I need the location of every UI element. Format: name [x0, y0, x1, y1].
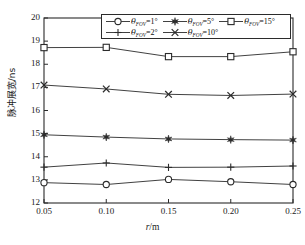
x-axis-title: r/m — [0, 222, 305, 232]
data-point-plus — [165, 164, 172, 171]
x-tick-label: 0.10 — [86, 206, 126, 216]
legend-label: θFOV=5° — [188, 17, 215, 26]
legend-item[interactable]: θFOV=15° — [218, 16, 275, 27]
data-point-circle-open — [228, 179, 234, 185]
legend-symbol-plus — [105, 27, 131, 38]
legend-symbol-cross — [162, 27, 188, 38]
data-point-circle-open — [41, 180, 47, 186]
legend-symbol-square-open — [218, 16, 244, 27]
data-point-square-open — [228, 54, 234, 60]
data-point-plus — [289, 162, 296, 169]
data-point-square-open — [228, 18, 234, 24]
y-tick-label: 17 — [16, 81, 40, 91]
legend-label: θFOV=2° — [131, 28, 158, 37]
y-tick-label: 15 — [16, 128, 40, 138]
legend-row-1: θFOV=1°θFOV=5°θFOV=15° — [105, 16, 287, 27]
data-point-plus — [40, 164, 47, 171]
y-tick-label: 20 — [16, 12, 40, 22]
legend-symbol-star-filled — [162, 16, 188, 27]
data-point-plus — [103, 159, 110, 166]
y-tick-label: 18 — [16, 58, 40, 68]
chart-figure: 脉冲展宽/ns r/m 121314151617181920 0.050.100… — [0, 0, 305, 245]
data-point-square-open — [165, 54, 171, 60]
legend-label: θFOV=10° — [188, 28, 219, 37]
y-tick-label: 13 — [16, 174, 40, 184]
legend-item[interactable]: θFOV=5° — [162, 16, 215, 27]
legend-label: θFOV=15° — [244, 17, 275, 26]
x-axis-unit: /m — [149, 222, 159, 232]
legend-label: θFOV=1° — [131, 17, 158, 26]
data-point-plus — [227, 164, 234, 171]
x-tick-label: 0.25 — [273, 206, 305, 216]
data-point-plus — [114, 29, 121, 36]
data-point-circle-open — [290, 181, 296, 187]
data-point-circle-open — [115, 18, 121, 24]
legend-symbol-circle-open — [105, 16, 131, 27]
data-point-square-open — [41, 45, 47, 51]
legend-item[interactable]: θFOV=1° — [105, 16, 158, 27]
y-tick-label: 14 — [16, 151, 40, 161]
data-point-square-open — [290, 49, 296, 55]
y-tick-label: 16 — [16, 105, 40, 115]
legend-box: θFOV=1°θFOV=5°θFOV=15° θFOV=2°θFOV=10° — [101, 14, 291, 39]
data-point-circle-open — [165, 176, 171, 182]
data-point-square-open — [103, 44, 109, 50]
data-point-circle-open — [103, 181, 109, 187]
legend-item[interactable]: θFOV=10° — [162, 27, 219, 38]
legend-row-2: θFOV=2°θFOV=10° — [105, 27, 287, 38]
y-tick-label: 19 — [16, 35, 40, 45]
legend-item[interactable]: θFOV=2° — [105, 27, 158, 38]
x-tick-label: 0.20 — [211, 206, 251, 216]
x-tick-label: 0.05 — [24, 206, 64, 216]
plot-frame — [44, 18, 293, 203]
x-tick-label: 0.15 — [149, 206, 189, 216]
